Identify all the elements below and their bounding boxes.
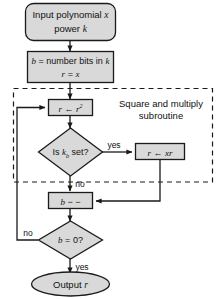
edge-label-bit-yes: yes: [107, 140, 120, 150]
node-start[interactable]: Input polynomial x power k: [26, 4, 116, 41]
node-decrement-label: b − −: [60, 197, 80, 207]
node-bit-test-label: Is kb set?: [52, 147, 88, 159]
subroutine-group-label-line2: subroutine: [139, 110, 183, 121]
subroutine-group-label-line1: Square and multiply: [119, 98, 203, 109]
edge-multiply-to-decrement: [96, 160, 160, 201]
node-decrement[interactable]: b − −: [49, 193, 93, 209]
node-init-line2: r = x: [62, 69, 80, 79]
node-init-line1: b = number bits in k: [32, 56, 111, 66]
flowchart-svg: Input polynomial x power k b = number bi…: [0, 0, 221, 299]
node-bit-test[interactable]: Is kb set?: [39, 128, 103, 176]
node-output[interactable]: Output r: [32, 272, 110, 296]
edge-label-bit-no: no: [75, 179, 85, 189]
edge-label-loop-no: no: [23, 228, 33, 238]
node-square-label: r ← r2: [58, 103, 82, 114]
node-multiply[interactable]: r ← xr: [136, 144, 185, 160]
node-start-line2: power k: [54, 23, 88, 34]
node-init[interactable]: b = number bits in k r = x: [28, 52, 114, 83]
node-multiply-label: r ← xr: [147, 148, 173, 158]
edge-looptest-no-to-square: [17, 108, 45, 241]
node-loop-test-label: b = 0?: [58, 235, 83, 245]
node-start-line1: Input polynomial x: [32, 9, 109, 20]
flowchart-container: Input polynomial x power k b = number bi…: [0, 0, 221, 299]
node-output-label: Output r: [53, 279, 88, 290]
edge-label-loop-yes: yes: [75, 262, 88, 272]
node-loop-test[interactable]: b = 0?: [39, 221, 103, 259]
node-square[interactable]: r ← r2: [49, 100, 93, 116]
